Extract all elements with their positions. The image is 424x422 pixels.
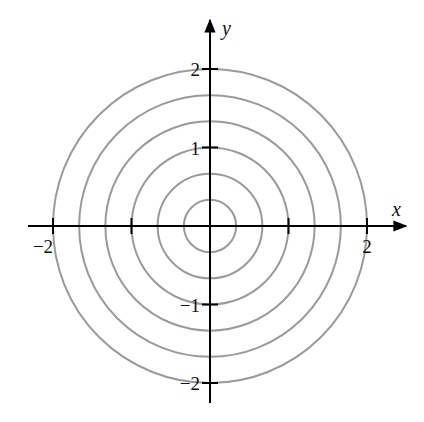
y-axis-label: y [220,17,231,40]
y-tick-label: −1 [180,295,200,316]
y-tick-label: 2 [191,59,201,80]
contour-plot: −2221−1−2 x y [0,0,424,422]
y-tick-label: −2 [180,373,200,394]
axes [28,20,406,403]
x-tick-label: −2 [33,236,53,257]
x-axis-label: x [391,198,401,220]
y-tick-label: 1 [191,138,201,159]
x-tick-label: 2 [362,236,372,257]
